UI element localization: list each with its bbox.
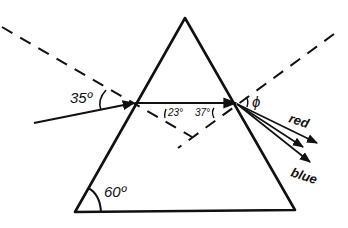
label-incident-angle: 35º — [70, 89, 94, 106]
label-refraction-angle-1: 23° — [167, 107, 183, 118]
label-ray-blue: blue — [289, 165, 319, 188]
prism-diagram: 35º 23° 37° ϕ 60º red blue — [0, 0, 348, 228]
arc-incident-angle — [100, 90, 106, 110]
arc-refraction-angle-2 — [213, 108, 215, 118]
label-apex-angle: 60º — [104, 183, 128, 200]
normal-line-right — [178, 34, 334, 148]
label-exit-angle: ϕ — [252, 93, 260, 110]
incident-ray — [34, 103, 134, 123]
normal-line-left — [2, 27, 192, 137]
arc-refraction-angle-1 — [165, 109, 166, 118]
label-ray-red: red — [287, 111, 312, 132]
label-refraction-angle-2: 37° — [195, 107, 210, 118]
arc-apex-angle — [88, 188, 101, 212]
